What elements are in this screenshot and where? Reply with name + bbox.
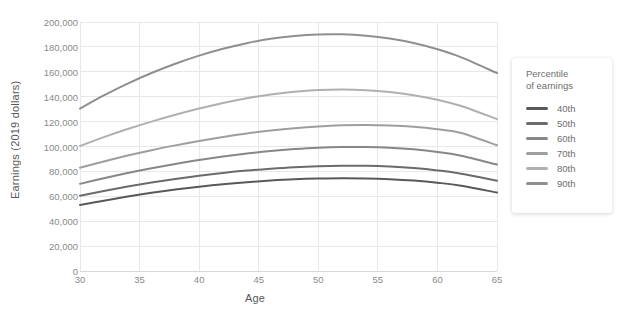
legend-swatch-60th xyxy=(526,137,548,140)
legend-item-90th[interactable]: 90th xyxy=(512,176,612,191)
x-tick-label: 30 xyxy=(75,274,86,285)
x-axis-title: Age xyxy=(0,292,510,304)
legend-label: 70th xyxy=(557,148,576,159)
legend-title-line-2: of earnings xyxy=(526,80,612,92)
legend-items: 40th50th60th70th80th90th xyxy=(512,101,612,191)
legend-item-60th[interactable]: 60th xyxy=(512,131,612,146)
x-tick-label: 55 xyxy=(373,274,384,285)
legend-label: 80th xyxy=(557,163,576,174)
gridlines xyxy=(80,22,497,271)
legend-item-40th[interactable]: 40th xyxy=(512,101,612,116)
x-axis-tick-labels: 3035404550556065 xyxy=(0,274,623,290)
x-tick-label: 35 xyxy=(134,274,145,285)
legend-label: 40th xyxy=(557,103,576,114)
legend-title: Percentile of earnings xyxy=(512,68,612,92)
legend-item-80th[interactable]: 80th xyxy=(512,161,612,176)
legend-swatch-70th xyxy=(526,152,548,155)
legend-item-70th[interactable]: 70th xyxy=(512,146,612,161)
legend-swatch-90th xyxy=(526,182,548,185)
legend-item-50th[interactable]: 50th xyxy=(512,116,612,131)
series-line-40th xyxy=(80,178,497,205)
legend-title-line-1: Percentile xyxy=(526,68,612,80)
chart-container: Earnings (2019 dollars) 020,00040,00060,… xyxy=(0,0,623,323)
x-tick-label: 50 xyxy=(313,274,324,285)
legend-label: 90th xyxy=(557,178,576,189)
legend-swatch-50th xyxy=(526,122,548,125)
series-lines xyxy=(80,34,497,205)
series-line-80th xyxy=(80,90,497,146)
legend-label: 50th xyxy=(557,118,576,129)
legend-swatch-40th xyxy=(526,107,548,110)
x-tick-label: 45 xyxy=(253,274,264,285)
legend: Percentile of earnings 40th50th60th70th8… xyxy=(512,58,612,213)
x-tick-label: 40 xyxy=(194,274,205,285)
legend-label: 60th xyxy=(557,133,576,144)
legend-swatch-80th xyxy=(526,167,548,170)
x-tick-label: 65 xyxy=(492,274,503,285)
x-tick-label: 60 xyxy=(432,274,443,285)
